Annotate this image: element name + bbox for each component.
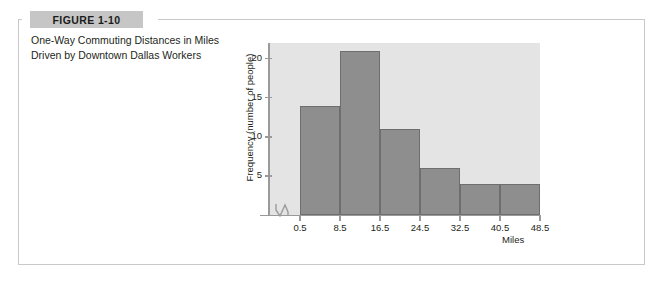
axis-break-icon <box>274 203 294 217</box>
histogram-bar <box>420 168 460 215</box>
histogram-bar <box>460 184 500 215</box>
y-tick-label: 5 <box>244 169 262 180</box>
histogram-bar <box>340 51 380 215</box>
histogram-bar <box>500 184 540 215</box>
x-tick-mark <box>339 215 341 221</box>
x-tick-mark <box>299 215 301 221</box>
y-tick-mark <box>265 58 272 60</box>
x-tick-label: 16.5 <box>360 222 400 233</box>
histogram-bar <box>300 106 340 215</box>
x-axis-title: Miles <box>502 234 524 245</box>
x-tick-mark <box>379 215 381 221</box>
x-tick-mark <box>539 215 541 221</box>
y-tick-mark <box>265 175 272 177</box>
x-tick-mark <box>459 215 461 221</box>
x-tick-mark <box>499 215 501 221</box>
x-tick-label: 48.5 <box>520 222 560 233</box>
x-tick-label: 8.5 <box>320 222 360 233</box>
figure-caption: One-Way Commuting Distances in Miles Dri… <box>31 33 231 62</box>
x-tick-mark <box>419 215 421 221</box>
bar-series <box>300 43 540 215</box>
x-tick-label: 40.5 <box>480 222 520 233</box>
y-axis-line <box>268 43 270 215</box>
y-tick-mark <box>265 136 272 138</box>
histogram-chart: Frequency (number of people) 5101520 0.5… <box>230 36 560 261</box>
y-tick-label: 15 <box>244 91 262 102</box>
y-tick-label: 20 <box>244 52 262 63</box>
x-tick-label: 32.5 <box>440 222 480 233</box>
figure-number-badge: FIGURE 1-10 <box>30 11 143 28</box>
histogram-bar <box>380 129 420 215</box>
x-tick-label: 24.5 <box>400 222 440 233</box>
y-tick-label: 10 <box>244 130 262 141</box>
y-tick-mark <box>265 97 272 99</box>
x-tick-label: 0.5 <box>280 222 320 233</box>
